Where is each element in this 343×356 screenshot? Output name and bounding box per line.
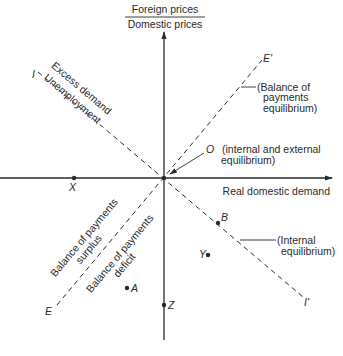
label-E-prime: E' bbox=[263, 52, 273, 64]
y-axis-label-denominator: Domestic prices bbox=[128, 18, 203, 30]
internal-annotation-line2: equilibrium) bbox=[281, 245, 335, 257]
external-annotation-line3: equilibrium) bbox=[263, 102, 317, 114]
label-Y: Y bbox=[199, 248, 207, 260]
point-B bbox=[216, 221, 220, 225]
point-A bbox=[125, 286, 129, 290]
label-A: A bbox=[130, 282, 138, 294]
y-axis-label-numerator: Foreign prices bbox=[132, 3, 199, 15]
label-I: I bbox=[32, 68, 35, 80]
origin-point bbox=[162, 176, 166, 180]
label-B: B bbox=[221, 211, 228, 223]
point-Z bbox=[162, 303, 166, 307]
point-Y bbox=[206, 253, 210, 257]
label-Z: Z bbox=[167, 299, 175, 311]
label-E: E bbox=[45, 305, 53, 317]
x-axis-label: Real domestic demand bbox=[223, 185, 331, 197]
label-X: X bbox=[68, 181, 77, 193]
swan-diagram: Foreign prices Domestic prices Real dome… bbox=[0, 0, 343, 356]
label-I-prime: I' bbox=[304, 296, 310, 308]
label-O: O bbox=[206, 143, 214, 155]
origin-annotation-line2: equilibrium) bbox=[221, 154, 275, 166]
point-X bbox=[72, 176, 76, 180]
